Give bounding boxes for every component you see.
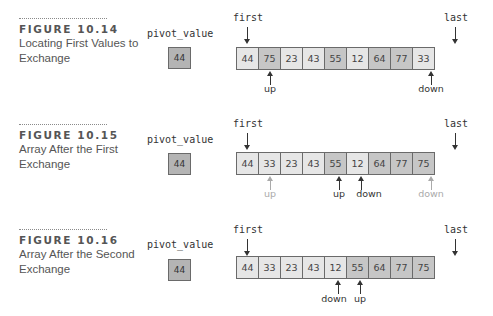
array-cell: 12 [324, 256, 347, 279]
array-cell: 43 [302, 152, 325, 175]
array-cell: 75 [412, 256, 435, 279]
array-cell: 55 [324, 152, 347, 175]
array-cell: 64 [368, 256, 391, 279]
array-cell: 33 [412, 47, 435, 70]
array-cell: 23 [280, 256, 303, 279]
array-cell: 44 [236, 47, 259, 70]
array-cell: 64 [368, 47, 391, 70]
array-cell: 55 [324, 47, 347, 70]
pivot-value-box: 44 [168, 259, 191, 281]
array-row: 44 33 23 43 12 55 64 77 75 [236, 256, 435, 279]
figure-number: FIGURE 10.14 [19, 23, 119, 35]
array-cell: 12 [346, 47, 369, 70]
down-label: down [321, 293, 347, 304]
faded-down-label: down [418, 188, 444, 199]
figure-10-15: FIGURE 10.15 Array After the First Excha… [0, 105, 493, 210]
down-label: down [418, 83, 444, 94]
last-label: last [444, 118, 468, 129]
array-cell: 23 [280, 47, 303, 70]
figure-10-14: FIGURE 10.14 Locating First Values to Ex… [0, 0, 493, 105]
up-label: up [354, 293, 366, 304]
array-cell: 12 [346, 152, 369, 175]
array-cell: 33 [258, 256, 281, 279]
array-cell: 75 [258, 47, 281, 70]
array-cell: 44 [236, 256, 259, 279]
array-cell: 43 [302, 47, 325, 70]
faded-up-label: up [264, 188, 276, 199]
last-label: last [444, 12, 468, 23]
pivot-value-box: 44 [168, 47, 191, 69]
divider [19, 18, 107, 19]
array-cell: 77 [390, 256, 413, 279]
pivot-value-label: pivot_value [147, 239, 213, 250]
array-cell: 64 [368, 152, 391, 175]
figure-10-16: FIGURE 10.16 Array After the Second Exch… [0, 210, 493, 315]
array-cell: 75 [412, 152, 435, 175]
array-cell: 77 [390, 152, 413, 175]
figure-caption: Array After the First Exchange [19, 142, 144, 172]
array-row: 44 75 23 43 55 12 64 77 33 [236, 47, 435, 70]
array-cell: 43 [302, 256, 325, 279]
array-cell: 44 [236, 152, 259, 175]
array-cell: 77 [390, 47, 413, 70]
pivot-value-label: pivot_value [147, 134, 213, 145]
first-label: first [233, 12, 263, 23]
array-row: 44 33 23 43 55 12 64 77 75 [236, 152, 435, 175]
divider [19, 124, 107, 125]
pivot-value-label: pivot_value [147, 28, 213, 39]
first-label: first [233, 118, 263, 129]
array-cell: 23 [280, 152, 303, 175]
figure-caption: Locating First Values to Exchange [19, 36, 144, 66]
figure-number: FIGURE 10.15 [19, 129, 119, 141]
divider [19, 229, 107, 230]
figure-caption: Array After the Second Exchange [19, 247, 144, 277]
up-label: up [333, 188, 345, 199]
pivot-value-box: 44 [168, 153, 191, 175]
array-cell: 33 [258, 152, 281, 175]
last-label: last [444, 224, 468, 235]
first-label: first [233, 224, 263, 235]
down-label: down [356, 188, 382, 199]
figure-number: FIGURE 10.16 [19, 234, 119, 246]
array-cell: 55 [346, 256, 369, 279]
up-label: up [264, 83, 276, 94]
